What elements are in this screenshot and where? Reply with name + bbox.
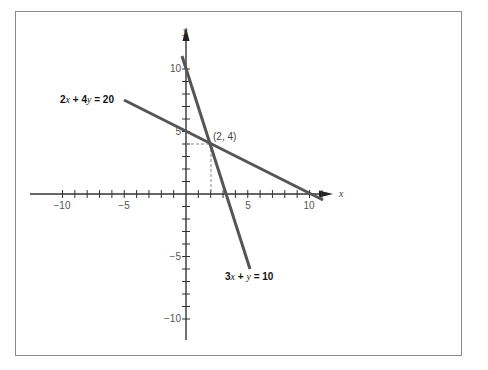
y-tick-label-neg5: −5 [170,251,182,262]
eq1-plus: + 4 [70,94,87,105]
line-3x-plus-y-eq-10 [182,56,250,269]
y-axis-label: y [182,25,188,36]
x-tick-label-neg10: −10 [54,200,71,211]
x-axis [30,191,333,198]
x-axis-label: x [338,188,344,199]
x-axis-arrow-icon [319,191,333,198]
eq2-plus: + [235,271,246,282]
x-tick-label-10: 10 [303,200,315,211]
intersection-label: (2, 4) [213,131,236,142]
x-tick-label-neg5: −5 [118,200,130,211]
equation-label-3x-y-10: 3x + y = 10 [225,271,274,282]
eq1-rhs: = 20 [91,94,114,105]
eq2-rhs: = 10 [251,271,274,282]
y-tick-label-10: 10 [170,63,182,74]
linear-system-graph: −10 −5 5 10 10 5 −5 −10 x y (2, 4) 2x + … [0,0,488,370]
x-tick-label-5: 5 [245,200,251,211]
equation-label-2x-4y-20: 2x + 4y = 20 [60,94,114,105]
y-tick-label-neg10: −10 [164,313,181,324]
